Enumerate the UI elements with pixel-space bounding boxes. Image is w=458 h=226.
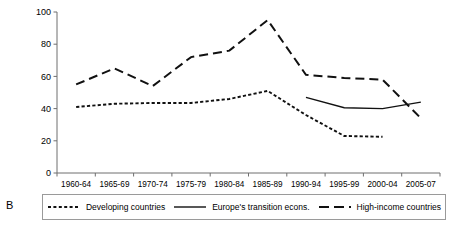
- x-axis-tick-label: 2000-04: [368, 180, 398, 189]
- series-line-europe-s-transition-econs: [306, 97, 421, 108]
- legend-item-high-income-countries: High-income countries: [318, 202, 442, 212]
- panel-label: B: [6, 199, 13, 211]
- x-tick-labels: 1960-641965-691970-741975-791980-841985-…: [61, 180, 436, 189]
- chart-figure: 020406080100 1960-641965-691970-741975-7…: [0, 0, 458, 226]
- y-tick-labels: 020406080100: [36, 7, 51, 178]
- y-axis-tick-label: 0: [46, 168, 51, 178]
- y-axis-tick-label: 80: [41, 39, 51, 49]
- x-axis-tick-label: 1960-64: [61, 180, 91, 189]
- dotted-line-swatch: [47, 203, 81, 211]
- plot-area: 020406080100 1960-641965-691970-741975-7…: [0, 0, 458, 190]
- x-axis-tick-label: 1980-84: [214, 180, 244, 189]
- x-axis-tick-label: 1970-74: [138, 180, 168, 189]
- series-line-high-income-countries: [76, 20, 421, 118]
- x-axis-tick-label: 1985-89: [253, 180, 283, 189]
- y-axis-tick-label: 60: [41, 72, 51, 82]
- y-axis-tick-label: 20: [41, 136, 51, 146]
- chart-legend: Developing countries Europe's transition…: [42, 194, 446, 220]
- x-axis-tick-label: 1965-69: [99, 180, 129, 189]
- legend-item-developing-countries: Developing countries: [47, 202, 165, 212]
- solid-line-swatch: [173, 203, 207, 211]
- dashed-line-swatch: [318, 203, 352, 211]
- legend-item-europe-transition-econs: Europe's transition econs.: [173, 202, 310, 212]
- axis-layer: [54, 12, 441, 177]
- y-axis-tick-label: 100: [36, 7, 51, 17]
- series-line-developing-countries: [76, 91, 382, 137]
- legend-label-high-income-countries: High-income countries: [357, 202, 442, 212]
- x-axis-tick-label: 1990-94: [291, 180, 321, 189]
- line-chart-svg: 020406080100 1960-641965-691970-741975-7…: [0, 0, 458, 190]
- x-axis-tick-label: 1995-99: [329, 180, 359, 189]
- y-axis-tick-label: 40: [41, 104, 51, 114]
- legend-label-developing-countries: Developing countries: [86, 202, 165, 212]
- legend-label-europe-transition-econs: Europe's transition econs.: [212, 202, 310, 212]
- x-axis-tick-label: 2005-07: [406, 180, 436, 189]
- x-axis-tick-label: 1975-79: [176, 180, 206, 189]
- data-series-layer: [76, 20, 421, 137]
